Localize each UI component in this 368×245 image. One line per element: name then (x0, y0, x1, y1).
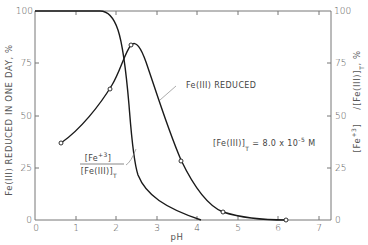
y-left-tick-25: 25 (21, 163, 32, 173)
ratio-sub: T (112, 172, 117, 179)
reduced-annotation: Fe(III) REDUCED (186, 81, 256, 90)
x-tick-2: 2 (113, 223, 119, 233)
svg-text:[Fe+3]: [Fe+3] (85, 151, 112, 163)
y-right-tick-75: 75 (335, 58, 346, 68)
x-axis-label: pH (171, 232, 184, 242)
right-label-sup: +3 (350, 128, 357, 138)
svg-text:/: / (352, 106, 362, 109)
x-tick-0: 0 (33, 223, 39, 233)
right-label-pct: , % (352, 50, 362, 65)
reduced-markers (59, 43, 288, 222)
data-point (284, 218, 288, 222)
y-right-tick-0: 0 (335, 215, 341, 225)
conc-species: Fe(III) (217, 139, 242, 148)
ratio-den: Fe(III) (84, 167, 109, 176)
y-ticks (35, 63, 331, 168)
y-axis-label-right: [Fe+3] / [Fe(III)]T, % (350, 50, 365, 152)
data-point (221, 210, 225, 214)
reduced-curve (61, 44, 286, 220)
svg-text:[Fe(III)]T: [Fe(III)]T (81, 167, 117, 179)
y-right-tick-25: 25 (335, 163, 346, 173)
conc-sub: T (244, 145, 249, 152)
y-left-tick-100: 100 (16, 6, 33, 16)
x-tick-7: 7 (316, 223, 322, 233)
data-point (59, 141, 63, 145)
y-tick-labels-left: 0 25 50 75 100 (16, 6, 33, 225)
right-label-num: Fe (352, 138, 362, 149)
x-tick-3: 3 (154, 223, 160, 233)
x-tick-5: 5 (235, 223, 241, 233)
y-left-tick-0: 0 (26, 215, 32, 225)
y-right-tick-100: 100 (334, 6, 351, 16)
y-right-tick-50: 50 (335, 111, 346, 121)
ratio-annotation: [Fe+3] [Fe(III)]T (80, 149, 136, 179)
y-axis-label-left: Fe(III) REDUCED IN ONE DAY, % (4, 44, 14, 195)
svg-text:[Fe(III)]T= 8.0 x 10-5M: [Fe(III)]T= 8.0 x 10-5M (213, 136, 315, 152)
x-tick-6: 6 (275, 223, 281, 233)
y-left-tick-75: 75 (21, 58, 32, 68)
reduced-leader-line (160, 86, 176, 100)
data-point (179, 159, 183, 163)
svg-text:[Fe(III)]T, %: [Fe(III)]T, % (352, 50, 365, 105)
y-left-tick-50: 50 (21, 111, 32, 121)
ratio-num: Fe (88, 154, 98, 163)
conc-value: = 8.0 x 10 (252, 139, 298, 148)
axes (35, 11, 331, 220)
conc-exp: -5 (298, 136, 305, 143)
data-point (108, 87, 112, 91)
ratio-curve (35, 11, 201, 220)
data-point (129, 43, 133, 47)
x-tick-1: 1 (73, 223, 79, 233)
conc-unit: M (308, 139, 315, 148)
x-tick-4: 4 (194, 223, 200, 233)
y-tick-labels-right: 0 25 50 75 100 (334, 6, 351, 225)
chart: 0 1 2 3 4 5 6 7 0 25 50 75 100 0 25 50 7… (0, 0, 368, 245)
svg-text:[Fe+3]: [Fe+3] (350, 124, 362, 153)
concentration-annotation: [Fe(III)]T= 8.0 x 10-5M (213, 136, 315, 152)
ratio-sup: +3 (98, 151, 108, 158)
right-label-den: Fe(III) (352, 74, 362, 102)
